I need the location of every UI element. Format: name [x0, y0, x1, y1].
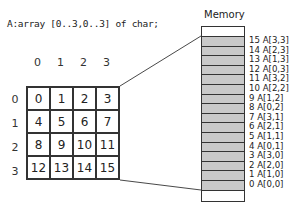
- memory-slot: [202, 66, 244, 76]
- memory-slot: [202, 37, 244, 47]
- memory-slot: [202, 47, 244, 57]
- memory-slot: [202, 123, 244, 133]
- memory-slot: [202, 171, 244, 181]
- memory-slot: [202, 85, 244, 95]
- memory-slot: [202, 95, 244, 105]
- memory-slot: [202, 56, 244, 66]
- memory-slot: [202, 143, 244, 153]
- memory-slot-empty: [202, 27, 244, 37]
- memory-slot: [202, 75, 244, 85]
- memory-slot: [202, 181, 244, 191]
- memory-slot: [202, 133, 244, 143]
- memory-slot-empty: [202, 191, 244, 201]
- memory-slot: [202, 152, 244, 162]
- memory-slot: [202, 114, 244, 124]
- memory-slot: [202, 162, 244, 172]
- memory-block: [201, 26, 245, 202]
- memory-label: 0 A[0,0]: [249, 180, 283, 190]
- memory-slot: [202, 104, 244, 114]
- memory-title: Memory: [204, 9, 245, 20]
